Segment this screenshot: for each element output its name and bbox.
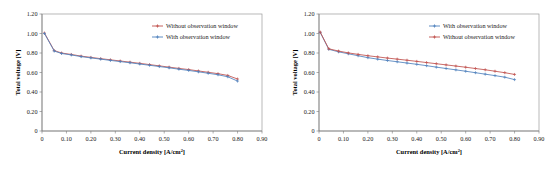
y-tick-label: 0.40 — [27, 88, 38, 95]
y-tick-label: 0.60 — [304, 69, 315, 76]
plot-area-border — [42, 14, 262, 131]
y-tick-label: 1.00 — [27, 30, 38, 37]
x-tick-label: 0.20 — [85, 135, 96, 142]
x-axis-title-superscript: 2 — [181, 148, 183, 153]
x-tick-label: 0.90 — [257, 135, 268, 142]
y-tick-label: 0.20 — [27, 108, 38, 115]
figure-row: 00.200.400.600.801.001.2000.100.200.300.… — [0, 0, 554, 176]
x-tick-label: 0.20 — [362, 135, 373, 142]
x-tick-label: 0.30 — [387, 135, 398, 142]
legend-label-0: With observation window — [443, 22, 508, 29]
y-tick-label: 0 — [311, 127, 314, 134]
x-tick-label: 0.40 — [134, 135, 145, 142]
y-tick-label: 0.40 — [304, 88, 315, 95]
chart-panel-left: 00.200.400.600.801.001.2000.100.200.300.… — [0, 0, 277, 176]
x-axis-title: Current density [A/cm2] — [396, 148, 462, 156]
x-tick-label: 0.70 — [485, 135, 496, 142]
chart-left-svg: 00.200.400.600.801.001.2000.100.200.300.… — [0, 0, 277, 176]
y-tick-label: 0.60 — [27, 69, 38, 76]
x-tick-label: 0 — [40, 135, 43, 142]
x-axis-title-superscript: 2 — [458, 148, 460, 153]
x-tick-label: 0.30 — [110, 135, 121, 142]
y-tick-label: 0.20 — [304, 108, 315, 115]
y-axis-title: Total voltage [V] — [14, 50, 21, 96]
x-tick-label: 0.90 — [534, 135, 545, 142]
y-axis-title: Total voltage [V] — [291, 50, 298, 96]
x-tick-label: 0.50 — [436, 135, 447, 142]
x-tick-label: 0 — [317, 135, 320, 142]
y-tick-label: 0 — [34, 127, 37, 134]
y-tick-label: 1.20 — [27, 10, 38, 17]
x-tick-label: 0.10 — [338, 135, 349, 142]
y-tick-label: 1.20 — [304, 10, 315, 17]
series-line-1 — [44, 34, 237, 82]
x-tick-label: 0.50 — [159, 135, 170, 142]
chart-right-svg: 00.200.400.600.801.001.2000.100.200.300.… — [277, 0, 554, 176]
x-tick-label: 0.10 — [61, 135, 72, 142]
y-tick-label: 0.80 — [304, 49, 315, 56]
x-tick-label: 0.40 — [411, 135, 422, 142]
y-tick-label: 0.80 — [27, 49, 38, 56]
x-tick-label: 0.80 — [232, 135, 243, 142]
x-tick-label: 0.60 — [460, 135, 471, 142]
x-tick-label: 0.70 — [208, 135, 219, 142]
legend-label-1: With observation window — [166, 33, 231, 40]
y-tick-label: 1.00 — [304, 30, 315, 37]
x-axis-title: Current density [A/cm2] — [119, 148, 185, 156]
chart-panel-right: 00.200.400.600.801.001.2000.100.200.300.… — [277, 0, 554, 176]
legend-label-1: Without observation window — [443, 33, 515, 40]
x-tick-label: 0.60 — [183, 135, 194, 142]
x-tick-label: 0.80 — [509, 135, 520, 142]
legend-label-0: Without observation window — [166, 22, 238, 29]
